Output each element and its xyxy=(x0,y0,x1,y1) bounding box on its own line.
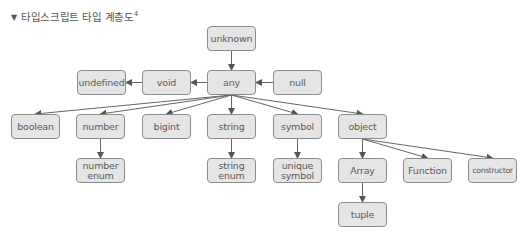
type-node-number: number xyxy=(76,114,125,139)
edge-any-to-object xyxy=(232,95,363,114)
edge-any-to-boolean xyxy=(36,95,232,114)
type-node-tuple: tuple xyxy=(338,202,387,227)
edge-object-to-function xyxy=(363,139,428,158)
edge-any-to-symbol xyxy=(232,95,298,114)
type-node-label: object xyxy=(348,122,376,132)
type-node-label: bigint xyxy=(154,122,180,132)
type-node-label: string xyxy=(218,122,244,132)
type-node-function: Function xyxy=(403,158,452,183)
type-node-label: unknown xyxy=(211,34,253,44)
type-node-label: Function xyxy=(408,166,447,176)
type-node-bigint: bigint xyxy=(142,114,191,139)
type-node-label: null xyxy=(289,78,306,88)
type-node-label: void xyxy=(157,78,176,88)
type-node-string-enum: string enum xyxy=(207,158,256,183)
type-node-label: Array xyxy=(350,166,375,176)
type-node-unknown: unknown xyxy=(207,26,256,51)
type-node-any: any xyxy=(207,70,256,95)
type-node-symbol: symbol xyxy=(273,114,322,139)
type-node-label: number xyxy=(83,122,119,132)
type-node-label: any xyxy=(223,78,240,88)
type-node-number-enum: number enum xyxy=(76,158,125,183)
type-node-label: number enum xyxy=(83,161,119,181)
type-node-label: tuple xyxy=(351,210,374,220)
type-node-undefined: undefined xyxy=(77,70,126,95)
edge-any-to-number xyxy=(101,95,232,114)
type-node-label: undefined xyxy=(79,78,125,88)
type-node-void: void xyxy=(142,70,191,95)
type-node-object: object xyxy=(338,114,387,139)
type-node-null: null xyxy=(273,70,322,95)
type-node-label: string enum xyxy=(218,161,244,181)
type-node-label: constructor xyxy=(472,166,512,176)
type-node-label: unique symbol xyxy=(281,161,314,181)
type-node-constructor: constructor xyxy=(468,158,517,183)
edge-object-to-constructor xyxy=(363,139,493,158)
type-node-boolean: boolean xyxy=(11,114,60,139)
type-node-label: boolean xyxy=(17,122,54,132)
type-node-label: symbol xyxy=(281,122,314,132)
type-node-string: string xyxy=(207,114,256,139)
type-node-unique-symbol: unique symbol xyxy=(273,158,322,183)
type-node-array: Array xyxy=(338,158,387,183)
